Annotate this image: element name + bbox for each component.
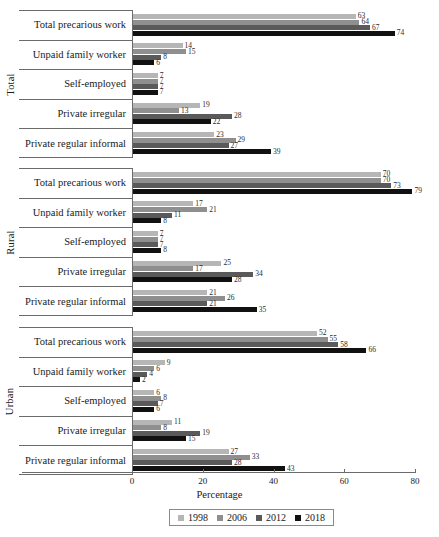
bar-value-label: 28 <box>234 112 242 120</box>
legend-swatch <box>295 515 301 521</box>
chart-row: Self-employed7778 <box>0 227 439 257</box>
bar-1998: 25 <box>133 261 221 266</box>
bar-group: 7778 <box>133 227 439 257</box>
bar-group: 21262135 <box>133 286 439 316</box>
bar-group: 1181915 <box>133 416 439 446</box>
panel-inner: TotalTotal precarious work63646774Unpaid… <box>0 10 439 158</box>
category-label: Self-employed <box>19 69 126 99</box>
x-tick <box>203 469 204 473</box>
chart-row: Unpaid family worker1721118 <box>0 198 439 228</box>
bar-2006: 15 <box>133 49 186 54</box>
bar-1998: 70 <box>133 172 381 177</box>
bar-value-label: 22 <box>213 118 221 126</box>
category-label: Private irregular <box>19 257 126 287</box>
chart-row: Private regular informal27332843 <box>0 445 439 475</box>
bar-value-label: 21 <box>209 206 217 214</box>
bar-1998: 52 <box>133 331 317 336</box>
bar-2018: 6 <box>133 407 154 412</box>
bar-2006: 70 <box>133 178 381 183</box>
chart-row: Private irregular1181915 <box>0 416 439 446</box>
chart-row: Unpaid family worker9642 <box>0 357 439 387</box>
category-label: Unpaid family worker <box>19 40 126 70</box>
bar-value-label: 9 <box>167 359 171 367</box>
bar-value-label: 6 <box>156 365 160 373</box>
bar-2006: 21 <box>133 207 207 212</box>
bar-group: 141586 <box>133 40 439 70</box>
legend-label: 1998 <box>188 512 208 523</box>
bar-2012: 21 <box>133 301 207 306</box>
category-label: Private regular informal <box>19 445 126 475</box>
bar-2018: 6 <box>133 60 154 65</box>
category-label: Unpaid family worker <box>19 198 126 228</box>
category-label: Total precarious work <box>19 327 126 357</box>
bar-1998: 7 <box>133 73 158 78</box>
bar-value-label: 26 <box>227 294 235 302</box>
bar-value-label: 74 <box>397 29 405 36</box>
panel-urban: UrbanTotal precarious work52555866Unpaid… <box>0 327 439 475</box>
bar-value-label: 34 <box>255 270 263 278</box>
x-tick <box>415 469 416 473</box>
bar-group: 63646774 <box>133 10 439 40</box>
bar-group: 19132822 <box>133 99 439 129</box>
bar-1998: 7 <box>133 231 158 236</box>
bar-group: 6876 <box>133 386 439 416</box>
chart-row: Total precarious work52555866 <box>0 327 439 357</box>
x-tick-label: 20 <box>198 476 207 486</box>
chart-row: Self-employed6876 <box>0 386 439 416</box>
bar-2006: 7 <box>133 79 158 84</box>
chart-legend: 1998200620122018 <box>169 509 334 526</box>
bar-2012: 28 <box>133 460 232 465</box>
category-label: Self-employed <box>19 227 126 257</box>
x-axis: 020406080 Percentage <box>0 472 439 506</box>
x-tick-label: 0 <box>130 476 135 486</box>
x-axis-line <box>22 472 415 473</box>
bar-2012: 58 <box>133 342 338 347</box>
bar-group: 25173428 <box>133 257 439 287</box>
bar-group: 1721118 <box>133 198 439 228</box>
chart-row: Unpaid family worker141586 <box>0 40 439 70</box>
chart-row: Total precarious work63646774 <box>0 10 439 40</box>
legend-item-1998: 1998 <box>178 512 208 523</box>
category-label: Total precarious work <box>19 168 126 198</box>
panel-inner: RuralTotal precarious work70707379Unpaid… <box>0 168 439 316</box>
bar-2006: 55 <box>133 337 328 342</box>
bar-1998: 14 <box>133 43 183 48</box>
bar-2012: 67 <box>133 25 370 30</box>
legend-label: 2006 <box>227 512 247 523</box>
bar-value-label: 4 <box>149 370 153 378</box>
legend-label: 2018 <box>305 512 325 523</box>
bar-group: 27332843 <box>133 445 439 475</box>
bar-2018: 22 <box>133 119 211 124</box>
bar-1998: 17 <box>133 201 193 206</box>
bar-2006: 33 <box>133 455 250 460</box>
x-tick-label: 40 <box>269 476 278 486</box>
chart-row: Self-employed7777 <box>0 69 439 99</box>
bar-group: 52555866 <box>133 327 439 357</box>
bar-value-label: 79 <box>414 187 422 195</box>
chart-row: Private irregular19132822 <box>0 99 439 129</box>
bar-value-label: 6 <box>156 59 160 67</box>
bar-value-label: 25 <box>223 259 231 267</box>
x-tick <box>344 469 345 473</box>
bar-2006: 13 <box>133 108 179 113</box>
bar-2012: 27 <box>133 143 229 148</box>
bar-2012: 7 <box>133 401 158 406</box>
bar-2006: 17 <box>133 266 193 271</box>
bar-2012: 73 <box>133 183 391 188</box>
bar-2018: 8 <box>133 248 161 253</box>
bar-value-label: 6 <box>156 405 160 413</box>
bar-2012: 7 <box>133 84 158 89</box>
bar-value-label: 11 <box>174 418 181 426</box>
legend-swatch <box>256 515 262 521</box>
category-label: Unpaid family worker <box>19 357 126 387</box>
bar-value-label: 19 <box>202 429 210 437</box>
panel-rural: RuralTotal precarious work70707379Unpaid… <box>0 168 439 316</box>
chart-row: Private irregular25173428 <box>0 257 439 287</box>
bar-value-label: 66 <box>368 346 376 354</box>
bar-2018: 66 <box>133 348 366 353</box>
bar-2006: 8 <box>133 425 161 430</box>
x-tick-label: 60 <box>340 476 349 486</box>
bar-value-label: 2 <box>142 376 146 384</box>
bar-value-label: 19 <box>202 101 210 109</box>
bar-value-label: 39 <box>273 148 281 156</box>
